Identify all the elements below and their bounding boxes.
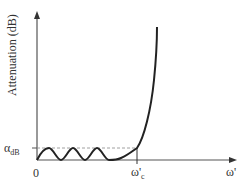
x-axis-label: ω' [226,166,236,178]
alpha-subscript: dB [10,148,19,157]
ripple-level-label: αdB [4,142,20,157]
y-axis-arrow-icon [34,11,40,19]
origin-label: 0 [33,167,39,179]
cutoff-subscript: c [141,172,145,181]
attenuation-curve [37,27,157,160]
x-axis-arrow-icon [229,157,237,163]
attenuation-diagram [0,0,249,189]
cutoff-symbol: ω' [131,165,141,179]
cutoff-label: ω'c [131,166,145,181]
y-axis-label: Attenuation (dB) [6,14,18,96]
